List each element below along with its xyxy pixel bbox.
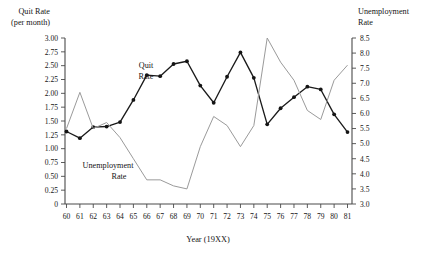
unemployment-rate-annotation-line2: Rate [111, 172, 126, 181]
x-tick-label: 77 [290, 212, 298, 221]
right-tick-label: 5.5 [360, 124, 370, 133]
x-tick-label: 72 [223, 212, 231, 221]
left-tick-label: 0.50 [45, 172, 58, 181]
quit-rate-data-point [265, 122, 269, 126]
left-axis-ticks: 3.002.752.502.252.001.751.501.251.000.75… [45, 34, 65, 209]
left-tick-label: 0.25 [45, 186, 58, 195]
left-tick-label: 2.25 [45, 75, 58, 84]
right-tick-label: 8.5 [360, 34, 370, 43]
right-tick-label: 3.5 [360, 185, 370, 194]
quit-rate-data-point [78, 136, 82, 140]
left-tick-label: 1.25 [45, 131, 58, 140]
x-tick-label: 79 [317, 212, 325, 221]
left-axis-title-line1: Quit Rate [18, 7, 50, 16]
right-tick-label: 4.5 [360, 155, 370, 164]
x-tick-label: 74 [250, 212, 258, 221]
x-axis-title: Year (19XX) [186, 235, 230, 244]
right-tick-label: 7.0 [360, 79, 370, 88]
right-tick-label: 5.0 [360, 139, 370, 148]
left-tick-label: 0.75 [45, 158, 58, 167]
right-tick-label: 6.0 [360, 109, 370, 118]
x-tick-label: 81 [344, 212, 352, 221]
quit-rate-data-point [105, 125, 109, 129]
x-tick-label: 76 [277, 212, 285, 221]
x-tick-label: 70 [197, 212, 205, 221]
x-tick-label: 69 [183, 212, 191, 221]
x-tick-label: 66 [143, 212, 151, 221]
right-axis-title-line2: Rate [358, 18, 373, 27]
left-tick-label: 3.00 [45, 34, 58, 43]
x-tick-label: 75 [263, 212, 271, 221]
quit-rate-data-point [305, 85, 309, 89]
x-tick-label: 62 [89, 212, 97, 221]
x-tick-label: 63 [103, 212, 111, 221]
quit-rate-data-point [172, 62, 176, 66]
quit-rate-data-point [346, 130, 350, 134]
quit-rate-data-point [118, 120, 122, 124]
quit-rate-data-point [239, 50, 243, 54]
left-axis-title-line2: (per month) [11, 18, 50, 27]
unemployment-rate-annotation-line1: Unemployment [83, 161, 135, 170]
quit-rate-data-point [132, 98, 136, 102]
right-axis-title-line1: Unemployment [358, 7, 410, 16]
right-tick-label: 4.0 [360, 170, 370, 179]
right-tick-label: 3.0 [360, 200, 370, 209]
quit-rate-data-point [158, 74, 162, 78]
quit-rate-data-point [292, 95, 296, 99]
left-tick-label: 1.75 [45, 103, 58, 112]
left-tick-label: 0 [54, 200, 58, 209]
right-tick-label: 6.5 [360, 94, 370, 103]
right-tick-label: 8.0 [360, 49, 370, 58]
x-tick-label: 68 [170, 212, 178, 221]
quit-rate-data-point [185, 59, 189, 63]
left-tick-label: 2.50 [45, 61, 58, 70]
quit-rate-data-point [279, 106, 283, 110]
quit-rate-data-point [252, 76, 256, 80]
left-tick-label: 1.00 [45, 144, 58, 153]
left-tick-label: 2.75 [45, 48, 58, 57]
right-axis-ticks: 8.58.07.57.06.56.05.55.04.54.03.53.0 [352, 34, 370, 209]
quit-rate-data-point [198, 84, 202, 88]
right-tick-label: 7.5 [360, 64, 370, 73]
x-tick-label: 65 [130, 212, 138, 221]
x-axis-ticks: 6061626364656667686970717273747576777879… [63, 204, 352, 221]
left-tick-label: 2.00 [45, 89, 58, 98]
x-tick-label: 60 [63, 212, 71, 221]
chart-figure: Quit Rate (per month) Unemployment Rate … [0, 0, 433, 254]
x-tick-label: 73 [237, 212, 245, 221]
quit-rate-data-point [319, 88, 323, 92]
quit-rate-data-point [332, 112, 336, 116]
x-tick-label: 80 [330, 212, 338, 221]
quit-rate-data-point [225, 75, 229, 79]
x-tick-label: 64 [116, 212, 124, 221]
quit-rate-annotation-line2: Rate [138, 72, 153, 81]
quit-rate-unemployment-line-chart: Quit Rate (per month) Unemployment Rate … [0, 0, 433, 254]
x-tick-label: 78 [304, 212, 312, 221]
quit-rate-data-point [212, 101, 216, 105]
quit-rate-annotation-line1: Quit [139, 61, 154, 70]
quit-rate-data-point [65, 130, 69, 134]
x-tick-label: 61 [76, 212, 84, 221]
left-tick-label: 1.50 [45, 117, 58, 126]
x-tick-label: 71 [210, 212, 218, 221]
x-tick-label: 67 [156, 212, 164, 221]
